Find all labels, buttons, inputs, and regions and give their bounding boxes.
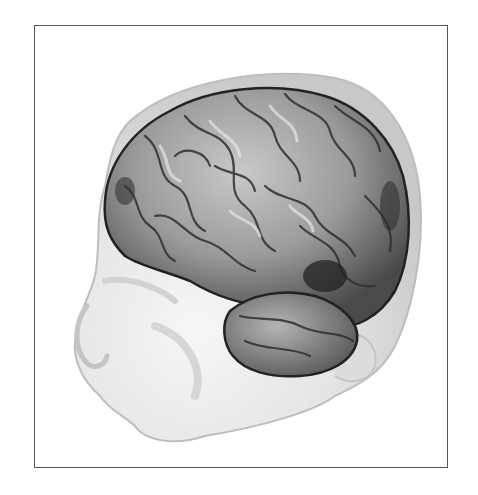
dark-region bbox=[303, 260, 347, 292]
figure-frame bbox=[34, 25, 448, 468]
brain-head-render bbox=[35, 26, 448, 468]
